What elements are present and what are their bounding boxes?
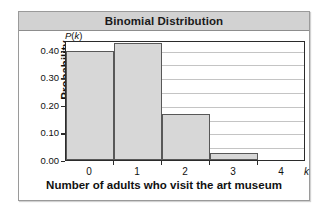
y-tick-label: 0.10 (19, 127, 59, 138)
x-tick-mark (161, 161, 162, 165)
x-tick-label: 4 (266, 166, 296, 177)
x-tick-mark (257, 161, 258, 165)
y-tick-label: 0.00 (19, 155, 59, 166)
plot-area (65, 41, 305, 161)
y-tick-mark (61, 161, 65, 162)
x-tick-label: 2 (170, 166, 200, 177)
x-tick-label: 1 (122, 166, 152, 177)
chart-title: Binomial Distribution (105, 15, 223, 27)
bar-2 (162, 114, 210, 160)
x-tick-mark (209, 161, 210, 165)
y-tick-label: 0.20 (19, 100, 59, 111)
bar-0 (66, 51, 114, 160)
chart-figure: Binomial Distribution P(k) Probability 0… (18, 11, 310, 201)
y-tick-label: 0.40 (19, 45, 59, 56)
x-tick-label: 3 (218, 166, 248, 177)
bar-3 (210, 153, 258, 160)
bar-1 (114, 43, 162, 160)
x-tick-mark (113, 161, 114, 165)
y-tick-label: 0.30 (19, 72, 59, 83)
x-axis-symbol-label: k (304, 166, 309, 177)
x-axis-title: Number of adults who visit the art museu… (19, 179, 309, 191)
x-tick-label: 0 (74, 166, 104, 177)
bar-series (66, 42, 304, 160)
